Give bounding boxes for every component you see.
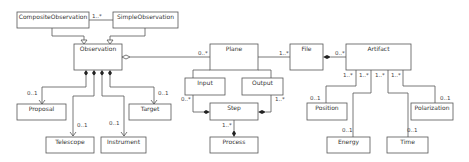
svg-text:File: File [301,45,311,52]
class-target[interactable]: Target [129,104,171,120]
mult-telescope: 0..1 [77,122,88,128]
mult-proposal: 0..1 [27,90,38,96]
mult-input-step: 0..* [181,96,191,102]
svg-text:Target: Target [140,105,160,113]
class-observation[interactable]: Observation [74,44,122,70]
class-telescope[interactable]: Telescope [46,137,94,153]
mult-artifact-energy: 1..* [359,72,369,78]
composition-diamond-icon [323,55,331,59]
mult-energy: 0..1 [342,127,353,133]
mult-artifact-position: 1..* [343,72,353,78]
class-process[interactable]: Process [210,137,258,153]
class-simple-observation[interactable]: SimpleObservation [113,12,178,28]
mult-composite-simple: 1..* [92,13,102,19]
svg-text:Instrument: Instrument [107,138,141,145]
class-output[interactable]: Output [242,78,283,95]
output-step [266,95,271,112]
generalization-arrow-icon [81,40,87,44]
svg-text:Process: Process [223,138,246,145]
class-input[interactable]: Input [185,78,225,95]
svg-text:Plane: Plane [226,45,243,52]
class-plane[interactable]: Plane [210,44,258,70]
input-step [193,95,203,112]
composition-diamond-icon [108,70,112,76]
svg-text:Proposal: Proposal [29,105,55,113]
plane-output [258,70,271,78]
svg-text:Step: Step [227,104,241,112]
composition-instrument [102,76,124,136]
mult-instrument: 0..1 [109,120,120,126]
composition-proposal [42,76,86,104]
svg-text:Input: Input [197,79,213,87]
generalization-composite [52,28,84,40]
mult-step-process: 1..* [222,122,232,128]
generalization-arrow-icon [107,40,113,44]
uml-diagram: CompositeObservation SimpleObservation O… [0,0,469,162]
artifact-time [388,70,408,137]
svg-text:CompositeObservation: CompositeObservation [19,13,88,21]
composition-diamond-icon [232,130,236,137]
mult-artifact-polarization: 1..* [391,72,401,78]
class-proposal[interactable]: Proposal [17,104,66,120]
svg-text:Observation: Observation [80,45,117,52]
svg-text:Energy: Energy [338,138,359,146]
mult-plane-file: 1..* [279,50,289,56]
svg-text:Output: Output [252,79,273,87]
svg-text:Artifact: Artifact [367,45,390,52]
svg-text:Time: Time [399,138,415,145]
class-position[interactable]: Position [307,103,347,120]
class-step[interactable]: Step [210,103,258,120]
mult-output-step: 1..* [275,96,285,102]
composition-diamond-icon [203,110,210,114]
composition-diamond-icon [100,70,104,76]
class-energy[interactable]: Energy [327,137,370,153]
composition-diamond-icon [92,70,96,76]
mult-target: 0..1 [158,90,169,96]
mult-polarization: 0..1 [440,95,451,101]
class-file[interactable]: File [290,44,323,70]
svg-text:Polarization: Polarization [415,104,450,111]
svg-text:Position: Position [315,104,339,111]
composition-target [110,76,154,104]
composition-diamond-icon [84,70,88,76]
class-time[interactable]: Time [387,137,428,153]
aggregation-diamond-icon [122,55,130,59]
class-instrument[interactable]: Instrument [101,137,146,153]
mult-file-artifact: 0..* [335,50,345,56]
class-polarization[interactable]: Polarization [411,103,453,120]
mult-obs-plane: 0..* [198,50,208,56]
svg-text:SimpleObservation: SimpleObservation [117,13,174,21]
composition-diamond-icon [258,110,266,114]
mult-position: 0..1 [310,95,321,101]
mult-artifact-time: 1..* [375,72,385,78]
svg-text:Telescope: Telescope [54,138,85,146]
mult-time: 0..1 [407,127,418,133]
class-artifact[interactable]: Artifact [346,44,411,70]
generalization-simple [110,28,145,40]
class-composite-observation[interactable]: CompositeObservation [17,12,89,28]
